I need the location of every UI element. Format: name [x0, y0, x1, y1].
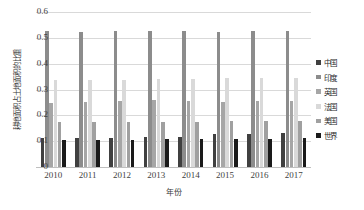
- bar: [114, 31, 118, 167]
- bar: [225, 78, 229, 167]
- bar: [178, 137, 182, 167]
- bar: [260, 78, 264, 167]
- legend-label: 法国: [324, 101, 338, 112]
- bar: [96, 140, 100, 167]
- bar: [294, 78, 298, 167]
- bar: [221, 102, 225, 167]
- legend-label: 印度: [324, 72, 338, 83]
- bar: [234, 139, 238, 167]
- bar-clusters: [36, 12, 311, 167]
- bar: [182, 31, 186, 167]
- legend-swatch-icon: [316, 133, 321, 138]
- bar: [286, 31, 290, 167]
- bar: [54, 80, 58, 167]
- bar: [88, 80, 92, 167]
- bar: [247, 134, 251, 167]
- bar: [84, 102, 88, 167]
- bar-cluster: [105, 12, 139, 167]
- x-axis-tick-label: 2014: [174, 170, 208, 180]
- bar-cluster: [242, 12, 276, 167]
- bar: [256, 101, 260, 167]
- bar: [148, 31, 152, 167]
- legend-item[interactable]: 英国: [316, 86, 337, 97]
- legend-item[interactable]: 世界: [316, 130, 337, 141]
- bar: [187, 101, 191, 167]
- bar-chart: 耕地面积占土地面积的比重 00.10.20.30.40.50.6 2010201…: [0, 0, 364, 210]
- bar: [281, 133, 285, 167]
- bar-cluster: [277, 12, 311, 167]
- bar: [290, 101, 294, 167]
- plot-area: [36, 12, 311, 167]
- bar: [144, 137, 148, 167]
- bar: [109, 138, 113, 167]
- bar: [157, 79, 161, 167]
- x-axis-title: 年份: [36, 186, 311, 197]
- x-axis-ticks: 20102011201220132014201520162017: [36, 170, 311, 180]
- y-axis-tick-label: 0.5: [18, 32, 48, 42]
- legend-label: 英国: [324, 86, 338, 97]
- gridline: [36, 167, 311, 168]
- y-axis-tick-label: 0.4: [18, 58, 48, 68]
- bar: [217, 32, 221, 167]
- legend-item[interactable]: 中国: [316, 57, 337, 68]
- x-axis-tick-label: 2011: [70, 170, 104, 180]
- bar: [79, 32, 83, 167]
- legend: 中国印度英国法国美国世界: [316, 57, 337, 141]
- bar-cluster: [208, 12, 242, 167]
- bar: [161, 122, 165, 167]
- legend-item[interactable]: 法国: [316, 101, 337, 112]
- bar-cluster: [139, 12, 173, 167]
- bar: [152, 100, 156, 167]
- legend-label: 中国: [324, 57, 338, 68]
- y-axis-tick-label: 0.1: [18, 135, 48, 145]
- x-axis-tick-label: 2010: [36, 170, 70, 180]
- bar-cluster: [174, 12, 208, 167]
- legend-label: 美国: [324, 115, 338, 126]
- bar: [49, 103, 53, 167]
- legend-swatch-icon: [316, 75, 321, 80]
- bar: [122, 80, 126, 167]
- legend-swatch-icon: [316, 119, 321, 124]
- bar: [131, 140, 135, 167]
- bar: [303, 138, 307, 167]
- bar: [75, 138, 79, 167]
- x-axis-tick-label: 2015: [208, 170, 242, 180]
- x-axis-tick-label: 2012: [105, 170, 139, 180]
- legend-swatch-icon: [316, 104, 321, 109]
- bar-cluster: [70, 12, 104, 167]
- bar: [200, 139, 204, 167]
- bar: [264, 121, 268, 167]
- y-axis-tick-label: 0.2: [18, 109, 48, 119]
- bar: [191, 79, 195, 167]
- bar: [268, 139, 272, 167]
- legend-item[interactable]: 印度: [316, 72, 337, 83]
- bar: [213, 134, 217, 167]
- x-axis-tick-label: 2016: [242, 170, 276, 180]
- legend-swatch-icon: [316, 60, 321, 65]
- bar: [251, 31, 255, 167]
- y-axis-tick-label: 0.6: [18, 6, 48, 16]
- bar: [92, 122, 96, 167]
- bar: [62, 140, 66, 167]
- bar: [165, 139, 169, 167]
- legend-item[interactable]: 美国: [316, 115, 337, 126]
- legend-label: 世界: [324, 130, 338, 141]
- x-axis-tick-label: 2017: [277, 170, 311, 180]
- legend-swatch-icon: [316, 89, 321, 94]
- bar: [118, 101, 122, 167]
- bar: [195, 122, 199, 167]
- x-axis-tick-label: 2013: [139, 170, 173, 180]
- bar: [230, 121, 234, 167]
- bar: [58, 122, 62, 167]
- bar: [127, 122, 131, 167]
- bar: [45, 31, 49, 167]
- y-axis-tick-label: 0.3: [18, 84, 48, 94]
- bar: [298, 121, 302, 168]
